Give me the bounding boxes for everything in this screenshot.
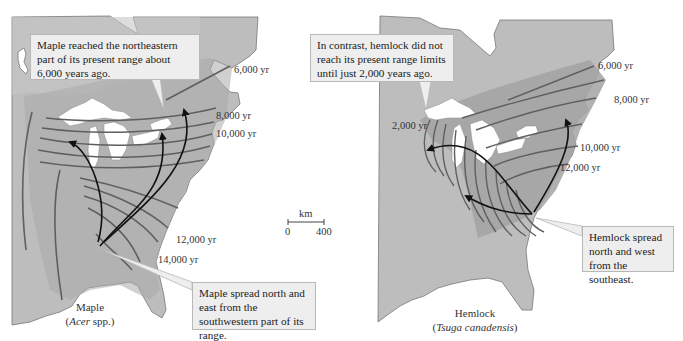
hemlock-isoline-8000: 8,000 yr xyxy=(614,94,649,105)
scale-bar xyxy=(288,219,324,225)
hemlock-isoline-12000: 12,000 yr xyxy=(560,162,600,173)
maple-isoline-14000: 14,000 yr xyxy=(158,254,198,265)
maple-common-name: Maple xyxy=(60,300,120,314)
maple-isoline-12000: 12,000 yr xyxy=(176,234,216,245)
range-expansion-figure: Maple reached the northeastern part of i… xyxy=(0,0,683,341)
scale-max: 400 xyxy=(316,226,332,237)
maple-isoline-6000: 6,000 yr xyxy=(234,64,269,75)
hemlock-common-name: Hemlock xyxy=(420,306,530,320)
hemlock-isoline-6000: 6,000 yr xyxy=(598,60,633,71)
hemlock-callout-spread: Hemlock spread north and west from the s… xyxy=(582,226,674,272)
maple-isoline-8000: 8,000 yr xyxy=(216,110,251,121)
hemlock-map-title: Hemlock (Tsuga canadensis) xyxy=(420,306,530,334)
hemlock-callout-limit: In contrast, hemlock did not reach its p… xyxy=(310,34,454,82)
maple-isoline-10000: 10,000 yr xyxy=(216,128,256,139)
maple-callout-southwest: Maple spread north and east from the sou… xyxy=(192,282,316,330)
maple-scientific-name: (Acer spp.) xyxy=(60,314,120,328)
hemlock-isoline-10000: 10,000 yr xyxy=(580,142,620,153)
maple-callout-northeast: Maple reached the northeastern part of i… xyxy=(30,34,200,80)
maple-map-title: Maple (Acer spp.) xyxy=(60,300,120,328)
scale-min: 0 xyxy=(285,226,290,237)
hemlock-scientific-name: (Tsuga canadensis) xyxy=(420,320,530,334)
scale-unit: km xyxy=(299,208,312,219)
hemlock-isoline-2000: 2,000 yr xyxy=(392,120,427,131)
